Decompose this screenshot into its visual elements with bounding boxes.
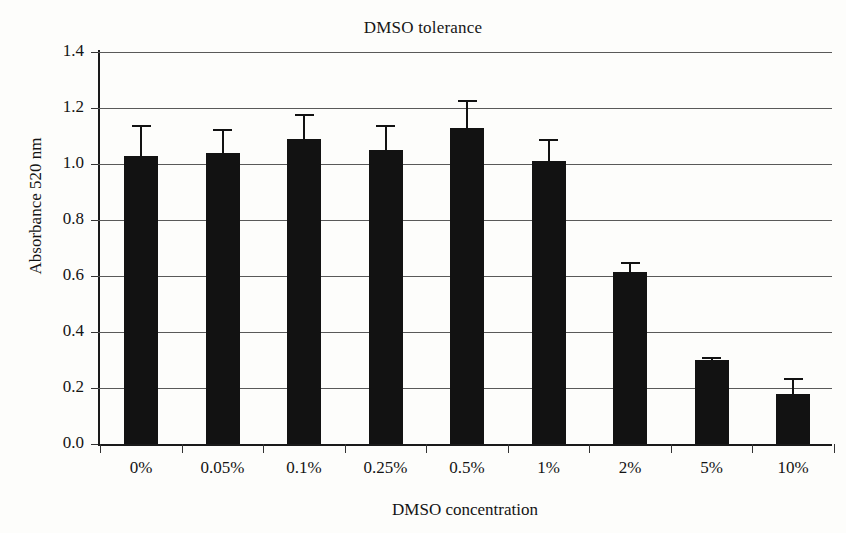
x-axis-label: 0.5% <box>422 458 512 478</box>
error-bar-cap <box>539 139 558 141</box>
error-bar-stem <box>222 129 224 153</box>
chart-title: DMSO tolerance <box>0 18 846 38</box>
x-axis-tick <box>263 444 264 453</box>
gridline <box>98 444 832 446</box>
x-axis-tick <box>752 444 753 453</box>
error-bar-cap <box>132 125 151 127</box>
error-bar-cap <box>295 114 314 116</box>
x-axis-label: 10% <box>748 458 838 478</box>
x-axis-tick <box>426 444 427 453</box>
x-axis-label: 0.05% <box>178 458 268 478</box>
bar <box>450 128 484 444</box>
bar <box>776 394 810 444</box>
bar <box>206 153 240 444</box>
bar <box>287 139 321 444</box>
error-bar-cap <box>784 378 803 380</box>
y-axis-label: 0.0 <box>28 433 84 453</box>
x-axis-label: 5% <box>667 458 757 478</box>
gridline <box>98 108 832 109</box>
error-bar-stem <box>792 378 794 393</box>
y-axis-label: 1.2 <box>28 97 84 117</box>
bar <box>369 150 403 444</box>
error-bar-stem <box>548 139 550 161</box>
error-bar-stem <box>303 114 305 139</box>
x-axis-tick <box>345 444 346 453</box>
x-axis-label: 0.25% <box>341 458 431 478</box>
x-axis-tick <box>182 444 183 453</box>
error-bar-cap <box>702 357 721 359</box>
chart-figure: DMSO tolerance Absorbance 520 nm DMSO co… <box>0 0 846 533</box>
plot-area <box>98 52 832 444</box>
bar <box>613 272 647 444</box>
error-bar-stem <box>140 125 142 156</box>
gridline <box>98 52 832 53</box>
x-axis-tick <box>508 444 509 453</box>
bar <box>532 161 566 444</box>
x-axis-tick <box>834 444 835 453</box>
x-axis-tick <box>100 444 101 453</box>
y-axis-label: 0.6 <box>28 265 84 285</box>
error-bar-stem <box>385 125 387 150</box>
y-axis-label: 0.2 <box>28 377 84 397</box>
x-axis-label: 1% <box>504 458 594 478</box>
x-axis-label: 2% <box>585 458 675 478</box>
bar <box>695 360 729 444</box>
y-axis-label: 0.4 <box>28 321 84 341</box>
x-axis-label: 0.1% <box>259 458 349 478</box>
x-axis-tick <box>671 444 672 453</box>
error-bar-cap <box>621 262 640 264</box>
y-axis-label: 1.0 <box>28 153 84 173</box>
y-axis-label: 0.8 <box>28 209 84 229</box>
y-axis-label: 1.4 <box>28 41 84 61</box>
bar <box>124 156 158 444</box>
x-axis-label: 0% <box>96 458 186 478</box>
error-bar-stem <box>466 100 468 128</box>
error-bar-cap <box>458 100 477 102</box>
error-bar-cap <box>213 129 232 131</box>
error-bar-cap <box>376 125 395 127</box>
x-axis-tick <box>589 444 590 453</box>
x-axis-title: DMSO concentration <box>98 500 832 520</box>
